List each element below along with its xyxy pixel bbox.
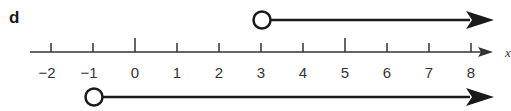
tick-labels: −2 −1 0 1 2 3 4 5 6 7 8	[38, 64, 475, 81]
tick-label: 4	[299, 64, 307, 81]
open-circle-icon	[254, 12, 271, 29]
tick-label: 8	[467, 64, 475, 81]
tick-label: 2	[215, 64, 223, 81]
tick-label: 0	[131, 64, 139, 81]
tick-label: 6	[383, 64, 391, 81]
ticks	[51, 38, 471, 52]
ray-bottom	[86, 88, 495, 106]
tick-label: 1	[173, 64, 181, 81]
tick-label: 3	[257, 64, 265, 81]
tick-label: 7	[425, 64, 433, 81]
axis-variable-label: x	[504, 45, 511, 60]
tick-label: −1	[80, 64, 97, 81]
arrowhead-icon	[466, 88, 494, 106]
open-circle-icon	[86, 89, 103, 106]
number-line-axis: −2 −1 0 1 2 3 4 5 6 7 8 x	[30, 38, 511, 81]
ray-top	[254, 11, 495, 29]
tick-label: 5	[341, 64, 349, 81]
tick-label: −2	[38, 64, 55, 81]
number-line-diagram: −2 −1 0 1 2 3 4 5 6 7 8 x	[0, 0, 511, 111]
arrowhead-icon	[466, 11, 494, 29]
